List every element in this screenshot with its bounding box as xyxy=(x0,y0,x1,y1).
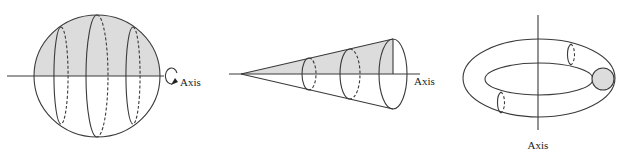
cone-bottom-edge xyxy=(241,74,393,109)
sphere-figure: Axis xyxy=(7,15,201,137)
torus-cross-sections xyxy=(497,44,574,113)
torus-shaded-disk xyxy=(592,68,614,90)
torus-figure: Axis xyxy=(463,15,615,151)
cone-axis-label: Axis xyxy=(414,75,435,87)
sphere-axis-label: Axis xyxy=(180,76,201,88)
torus-axis-label: Axis xyxy=(528,139,549,151)
solids-of-revolution-diagram: Axis Axis Axis xyxy=(0,0,618,159)
cone-figure: Axis xyxy=(229,39,435,109)
sphere-shaded-half xyxy=(34,15,160,76)
torus-inner-edge xyxy=(485,63,593,95)
rotation-arrowhead-icon xyxy=(171,78,178,85)
